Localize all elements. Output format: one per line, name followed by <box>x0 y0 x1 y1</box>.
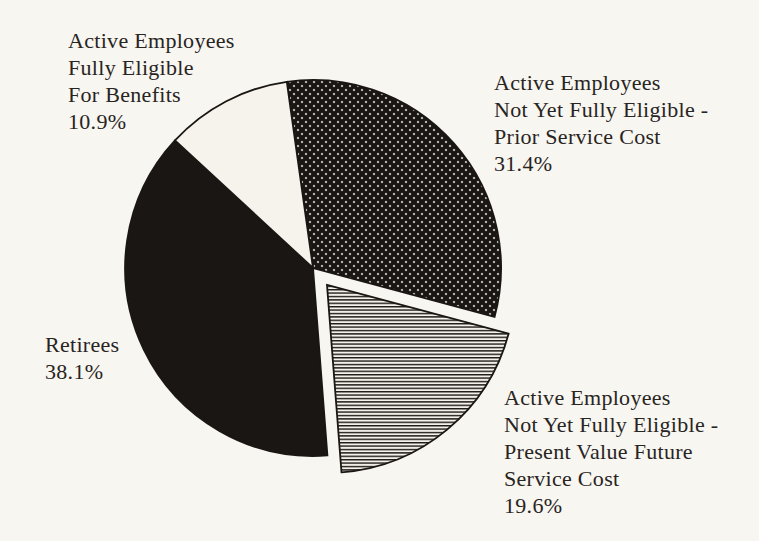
pie-slices <box>125 80 508 472</box>
pie-slice-prior-service <box>287 80 501 317</box>
label-retirees: Retirees 38.1% <box>45 331 119 385</box>
label-prior-service: Active Employees Not Yet Fully Eligible … <box>494 69 708 177</box>
label-present-value: Active Employees Not Yet Fully Eligible … <box>504 384 718 519</box>
chart-page: Active Employees Fully Eligible For Bene… <box>0 0 759 541</box>
label-fully-eligible: Active Employees Fully Eligible For Bene… <box>68 27 235 135</box>
